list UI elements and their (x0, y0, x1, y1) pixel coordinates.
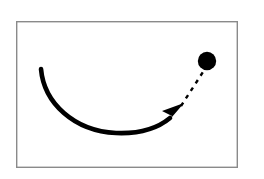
diagram-canvas (0, 0, 264, 179)
target-dot (198, 52, 216, 70)
figure-root (0, 0, 264, 179)
